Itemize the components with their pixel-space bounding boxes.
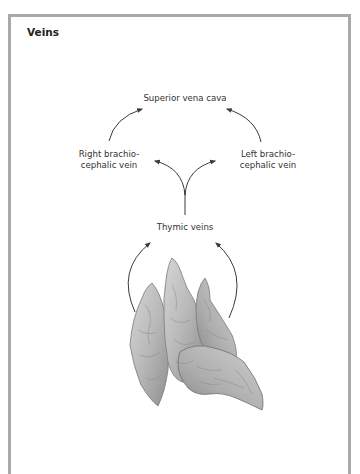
thymus-illustration bbox=[130, 258, 263, 410]
thymus-left-lobe bbox=[130, 283, 169, 406]
thymus-right-lower-lobe bbox=[178, 346, 263, 410]
arrow-thymic-to-right-brachiocephalic bbox=[155, 161, 185, 195]
arrow-right-brachiocephalic-to-svc bbox=[109, 109, 142, 141]
arrow-left-brachiocephalic-to-svc bbox=[227, 109, 261, 142]
arrow-thymus-right-to-thymic-veins bbox=[216, 243, 237, 318]
arrow-thymic-to-left-brachiocephalic bbox=[185, 161, 215, 195]
